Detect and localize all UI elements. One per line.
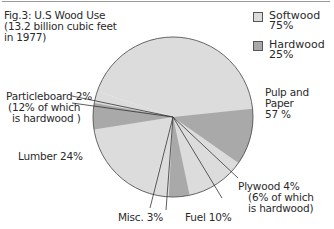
label-plywood: Plywood 4% (6% of which is hardwood) (238, 181, 314, 214)
label-pulp-and-paper: Pulp and Paper 57 % (265, 87, 309, 120)
label-lumber: Lumber 24% (18, 151, 83, 162)
label-misc: Misc. 3% (118, 212, 163, 223)
label-fuel: Fuel 10% (185, 212, 232, 223)
label-particleboard: Particleboard 2% (12% of which is hardwo… (6, 91, 92, 124)
